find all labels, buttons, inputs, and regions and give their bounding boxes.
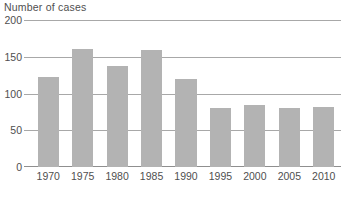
x-tick-label-2010: 2010 [312,170,335,182]
y-tick-mark [24,57,31,58]
chart-title: Number of cases [4,1,86,13]
x-tick-label-1975: 1975 [71,170,94,182]
bar-1990 [175,79,196,167]
x-tick-label-2000: 2000 [243,170,266,182]
y-tick-mark [24,94,31,95]
bar-chart: Number of cases 050100150200 19701975198… [0,0,351,199]
y-tick-label: 150 [4,51,22,63]
x-tick-label-1995: 1995 [209,170,232,182]
y-tick-mark [24,20,31,21]
y-tick-mark [24,166,31,167]
x-tick-label-1985: 1985 [140,170,163,182]
x-tick-label-2005: 2005 [278,170,301,182]
y-tick-label: 50 [10,124,22,136]
bar-2005 [279,108,300,167]
plot-area: 050100150200 [31,20,341,167]
bars-group [31,20,341,167]
bar-2010 [313,107,334,167]
bar-1980 [107,66,128,167]
bar-1970 [38,77,59,167]
x-tick-label-1970: 1970 [37,170,60,182]
bar-1975 [72,49,93,167]
x-tick-label-1990: 1990 [174,170,197,182]
x-axis: 197019751980198519901995200020052010 [31,170,341,186]
y-tick-label: 100 [4,88,22,100]
bar-1995 [210,108,231,167]
y-tick-label: 0 [16,161,22,173]
bar-1985 [141,50,162,167]
x-tick-label-1980: 1980 [105,170,128,182]
bar-2000 [244,105,265,167]
y-tick-label: 200 [4,14,22,26]
y-tick-mark [24,130,31,131]
